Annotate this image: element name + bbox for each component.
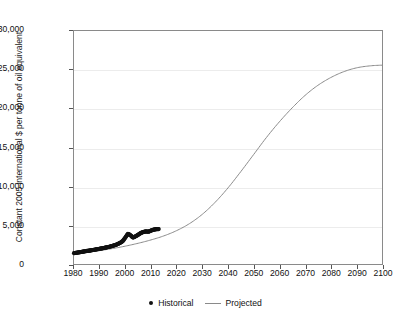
y-axis-tick-label: 10,000	[0, 181, 24, 191]
x-axis-tick-mark	[228, 265, 229, 269]
chart-legend: Historical Projected	[0, 298, 411, 308]
legend-item-historical: Historical	[149, 298, 193, 308]
x-axis-tick-mark	[176, 265, 177, 269]
x-axis-tick-mark	[99, 265, 100, 269]
plot-area	[73, 30, 383, 265]
y-axis-tick-mark	[69, 187, 73, 188]
y-axis-tick-label: 25,000	[0, 63, 24, 73]
x-axis-tick-mark	[151, 265, 152, 269]
x-axis-tick-mark	[202, 265, 203, 269]
x-axis-tick-mark	[306, 265, 307, 269]
x-axis-tick-mark	[280, 265, 281, 269]
x-axis-tick-label: 2100	[360, 268, 406, 278]
y-axis-tick-mark	[69, 30, 73, 31]
y-axis-tick-label: 15,000	[0, 142, 24, 152]
y-axis-tick-label: 30,000	[0, 24, 24, 34]
y-axis-tick-label: 20,000	[0, 102, 24, 112]
series-projected-line	[74, 65, 382, 254]
legend-label-projected: Projected	[226, 298, 262, 308]
dot-marker-icon	[149, 301, 153, 305]
legend-item-projected: Projected	[205, 298, 262, 308]
x-axis-tick-mark	[254, 265, 255, 269]
x-axis-tick-mark	[73, 265, 74, 269]
y-axis-tick-mark	[69, 69, 73, 70]
y-axis-tick-label: 0	[0, 259, 24, 269]
series-layer	[74, 31, 382, 264]
x-axis-tick-mark	[383, 265, 384, 269]
y-axis-tick-mark	[69, 226, 73, 227]
x-axis-tick-mark	[357, 265, 358, 269]
y-axis-tick-mark	[69, 148, 73, 149]
x-axis-tick-mark	[331, 265, 332, 269]
data-point	[157, 227, 161, 231]
chart-figure: Constant 2005 international $ per tonne …	[0, 0, 411, 323]
y-axis-tick-mark	[69, 108, 73, 109]
x-axis-tick-mark	[125, 265, 126, 269]
legend-label-historical: Historical	[158, 298, 193, 308]
line-marker-icon	[205, 303, 221, 304]
y-axis-tick-label: 5,000	[0, 220, 24, 230]
